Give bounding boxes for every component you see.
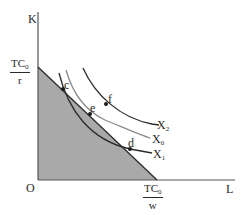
y-intercept-label: TC0 r (10, 58, 30, 86)
curve-x1-label: X1 (153, 148, 165, 162)
isoquant-x2 (83, 68, 159, 125)
point-e-label: e (90, 102, 95, 114)
point-c-label: c (64, 79, 69, 91)
x-intercept-label: TC0 w (143, 183, 163, 211)
curve-x2-label: X2 (157, 119, 169, 133)
origin-label: O (26, 182, 35, 194)
x-axis-label: L (226, 183, 233, 195)
isocost-isoquant-diagram (0, 0, 245, 215)
curve-x0-label: X0 (152, 133, 164, 147)
y-axis-label: K (28, 13, 37, 25)
point-d-label: d (128, 137, 134, 149)
point-f-label: f (108, 93, 112, 105)
